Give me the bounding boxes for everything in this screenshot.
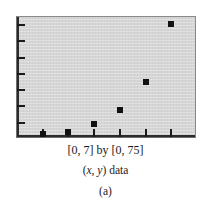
viewing-window-caption: [0, 7] by [0, 75]	[0, 143, 211, 158]
data-caption: (x, y) data	[0, 164, 211, 176]
y-axis-line	[17, 17, 19, 138]
y-axis-tick-4	[17, 57, 25, 59]
data-point-0	[40, 131, 46, 137]
y-axis-tick-3	[17, 73, 25, 75]
y-axis-tick-2	[17, 89, 25, 91]
x-axis-tick-4	[145, 129, 147, 137]
x-axis-tick-5	[170, 129, 172, 137]
plot-area	[16, 16, 196, 138]
plot-texture-overlay	[17, 17, 195, 137]
data-point-3	[117, 107, 123, 113]
x-axis-tick-3	[119, 129, 121, 137]
data-caption-suffix: ) data	[102, 164, 128, 176]
data-point-5	[168, 21, 174, 27]
y-axis-tick-1	[17, 105, 25, 107]
data-point-4	[143, 79, 149, 85]
data-point-2	[91, 121, 97, 127]
y-axis-tick-5	[17, 40, 25, 42]
data-point-1	[65, 129, 71, 135]
scatter-plot-figure: [0, 7] by [0, 75] (x, y) data (a)	[0, 0, 211, 210]
y-axis-tick-0	[17, 122, 25, 124]
y-axis-tick-6	[17, 24, 25, 26]
x-axis-tick-2	[93, 129, 95, 137]
panel-letter-caption: (a)	[0, 185, 211, 197]
